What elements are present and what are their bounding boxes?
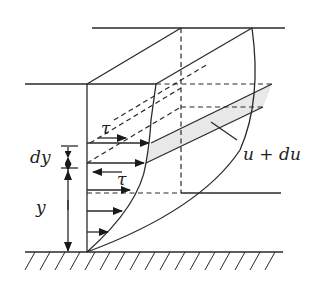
y-label: y	[35, 197, 46, 217]
boundary-layer-diagram: τ τ dy y u + du	[0, 0, 312, 296]
box-edges	[87, 28, 252, 84]
u-du-label: u + du	[243, 144, 301, 164]
wall	[25, 252, 283, 270]
tau-bottom-label: τ	[117, 169, 127, 189]
tau-top-label: τ	[101, 118, 111, 138]
dy-label: dy	[30, 147, 51, 167]
dimension-arrows	[61, 146, 78, 251]
